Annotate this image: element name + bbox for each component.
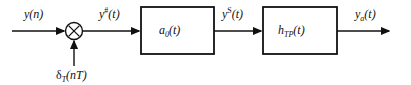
held-signal-label: yS(t): [222, 8, 243, 20]
sampling-train-label: δT(nT): [56, 69, 87, 81]
held-signal-tail: (t): [232, 7, 243, 21]
block-diagram: y(n) y#(t) δT(nT) yS(t) ya(t) a0(t) hTP(…: [0, 0, 411, 85]
output-subscript: a: [360, 14, 364, 23]
input-signal-label: y(n): [24, 8, 43, 20]
sampled-signal-superscript: #: [104, 6, 108, 15]
held-signal-superscript: S: [227, 6, 231, 15]
interpolation-tail: (t): [169, 23, 180, 37]
interpolation-subscript: 0: [165, 30, 169, 39]
delta-tail: (nT): [66, 68, 87, 82]
output-tail: (t): [364, 7, 375, 21]
sampled-signal-label: y#(t): [99, 8, 120, 20]
sampled-signal-tail: (t): [108, 7, 119, 21]
delta-subscript: T: [62, 75, 66, 84]
filter-tail: (t): [293, 23, 304, 37]
delta-base: δ: [56, 68, 62, 82]
filter-subscript: TP: [284, 30, 293, 39]
interpolation-block-label: a0(t): [159, 24, 180, 36]
output-signal-label: ya(t): [355, 8, 376, 20]
lowpass-filter-block-label: hTP(t): [278, 24, 305, 36]
